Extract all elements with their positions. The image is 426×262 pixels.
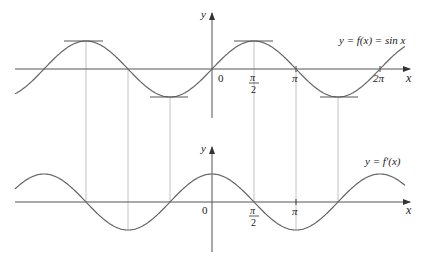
top-tick-label-pi: π (292, 72, 298, 84)
bottom-tick-label-half-pi-den: 2 (251, 217, 256, 228)
bottom-y-axis-label: y (200, 142, 206, 154)
bottom-origin-label: 0 (202, 204, 208, 216)
top-x-axis-label: x (405, 71, 412, 85)
top-tick-label-half-pi-den: 2 (251, 84, 256, 95)
top-origin-label: 0 (218, 72, 224, 84)
bottom-curve-label: y = f′(x) (364, 155, 401, 168)
top-curve-label: y = f(x) = sin x (338, 34, 406, 47)
bottom-graph: y x 0 π 2 π y = f′(x) (15, 142, 412, 252)
top-y-axis-label: y (200, 8, 206, 20)
top-tick-label-2pi: 2π (373, 72, 385, 84)
bottom-tick-label-half-pi-num: π (250, 205, 256, 216)
top-tick-label-half-pi-num: π (250, 72, 256, 83)
bottom-tick-label-pi: π (292, 205, 298, 217)
derivative-diagram: y x 0 π 2 π 2π y = f(x) = sin x y x 0 π … (0, 0, 426, 262)
top-graph: y x 0 π 2 π 2π y = f(x) = sin x (15, 8, 412, 118)
bottom-x-axis-label: x (405, 203, 412, 217)
